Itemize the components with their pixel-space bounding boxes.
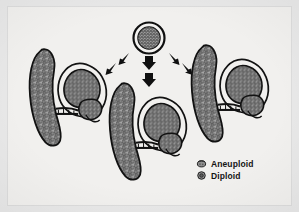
aneuploid-cell-icon xyxy=(196,159,207,168)
diploid-cell-icon xyxy=(196,171,207,180)
arrow-left xyxy=(106,53,130,75)
figure-root: Aneuploid Diploid xyxy=(0,0,299,212)
unit-right xyxy=(192,45,269,141)
unit-left xyxy=(30,49,107,145)
legend-label-aneuploid: Aneuploid xyxy=(211,159,253,169)
unit-center xyxy=(110,83,187,179)
legend-item-diploid: Diploid xyxy=(196,170,288,181)
legend-item-aneuploid: Aneuploid xyxy=(196,158,288,169)
legend: Aneuploid Diploid xyxy=(196,158,288,182)
arrow-right xyxy=(169,53,193,75)
legend-label-diploid: Diploid xyxy=(211,171,241,181)
source-oocyte xyxy=(134,23,165,54)
arrow-center xyxy=(142,56,156,87)
